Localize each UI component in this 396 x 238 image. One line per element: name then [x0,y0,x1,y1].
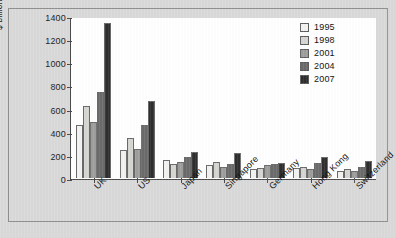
bar [170,164,177,178]
bar [120,150,127,178]
legend-item: 2001 [300,48,335,58]
x-label-cell: Japan [157,180,201,236]
y-tick-label: 200 [50,152,66,162]
x-label-cell: Germany [245,180,289,236]
legend-item: 2004 [300,61,335,71]
bar [213,162,220,178]
x-label-cell: Hong Kong [289,180,333,236]
bar [127,138,134,178]
y-tick-label: 1200 [45,36,66,46]
bar [206,165,213,178]
bar [220,167,227,178]
legend-item: 1995 [300,22,335,32]
x-label-cell: Switzerland [332,180,376,236]
x-label-cell: US [114,180,158,236]
y-tick-label: 1400 [45,13,66,23]
legend-label: 2007 [314,74,335,84]
bar [163,160,170,178]
bar-group [202,18,245,178]
bar [141,125,148,178]
legend-swatch [300,62,309,71]
x-label-cell: UK [70,180,114,236]
bar [307,169,314,178]
x-axis-tick-labels: UKUSJapanSingaporeGermanyHong KongSwitze… [70,180,376,236]
bar [351,171,358,178]
legend-label: 2001 [314,48,335,58]
bar [344,169,351,178]
y-tick-label: 1000 [45,59,66,69]
y-tick-label: 800 [50,82,66,92]
bar [97,92,104,178]
bar [177,162,184,178]
bar [104,23,111,178]
bar [300,167,307,178]
y-tick-label: 400 [50,129,66,139]
legend-swatch [300,75,309,84]
bar [250,169,257,178]
bar [257,168,264,178]
bar [90,122,97,178]
bar-group [159,18,202,178]
legend-swatch [300,49,309,58]
bar [337,171,344,178]
bar [76,125,83,178]
legend-label: 1998 [314,35,335,45]
y-axis-tick-labels: 0200400600800100012001400 [24,18,66,180]
legend-item: 2007 [300,74,335,84]
y-tick-label: 600 [50,106,66,116]
chart-figure: $ billion 0200400600800100012001400 UKUS… [0,0,396,238]
legend-label: 1995 [314,22,335,32]
legend-label: 2004 [314,61,335,71]
bar [134,149,141,178]
y-tick-label: 0 [61,175,66,185]
bar [264,165,271,178]
legend-swatch [300,36,309,45]
bar-group [72,18,115,178]
y-axis-title: $ billion [0,0,4,30]
chart-legend: 19951998200120042007 [300,22,335,84]
bar [83,106,90,178]
legend-item: 1998 [300,35,335,45]
bar-group [115,18,158,178]
x-label-cell: Singapore [201,180,245,236]
bar [148,101,155,178]
legend-swatch [300,23,309,32]
